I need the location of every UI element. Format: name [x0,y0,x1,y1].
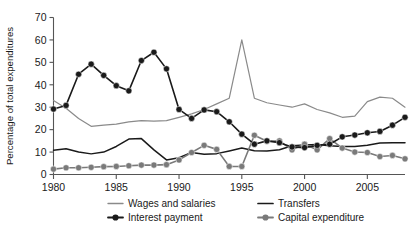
data-point-marker [327,136,333,142]
x-tick-label: 2000 [293,181,317,193]
expenditure-line-chart: 010203040506070 198019851990199520002005… [0,0,411,234]
data-point-marker [101,72,107,78]
legend-swatch-marker [262,214,268,220]
data-point-marker [113,83,119,89]
data-point-marker [88,164,94,170]
data-point-marker [377,153,383,159]
data-point-marker [226,119,232,125]
data-point-marker [377,128,383,134]
x-tick-label: 2005 [356,181,380,193]
data-point-marker [176,106,182,112]
y-tick-label: 70 [35,11,47,23]
data-point-marker [389,152,395,158]
data-point-marker [151,162,157,168]
y-axis-label: Percentage of total expenditures [4,27,15,165]
data-point-marker [163,66,169,72]
data-point-marker [88,61,94,67]
data-point-marker [138,57,144,63]
data-point-marker [63,102,69,108]
data-point-marker [201,107,207,113]
legend-label: Capital expenditure [278,212,365,223]
data-point-marker [214,146,220,152]
y-tick-label: 20 [35,123,47,135]
data-point-marker [389,122,395,128]
x-tick-label: 1985 [105,181,129,193]
data-point-marker [126,163,132,169]
data-point-marker [314,142,320,148]
data-point-marker [264,138,270,144]
data-point-marker [364,149,370,155]
data-point-marker [402,156,408,162]
legend-label: Transfers [278,198,320,209]
legend-label: Wages and salaries [128,198,215,209]
y-tick-label: 0 [41,168,47,180]
data-point-marker [126,88,132,94]
data-point-marker [50,166,56,172]
x-tick-label: 1980 [42,181,66,193]
data-point-marker [402,114,408,120]
data-point-marker [289,144,295,150]
data-point-marker [339,134,345,140]
data-point-marker [50,106,56,112]
data-point-marker [352,149,358,155]
data-point-marker [163,162,169,168]
data-point-marker [113,163,119,169]
y-tick-label: 50 [35,56,47,68]
data-point-marker [101,164,107,170]
data-point-marker [138,162,144,168]
data-point-marker [188,149,194,155]
legend-label: Interest payment [128,212,203,223]
data-point-marker [239,163,245,169]
data-point-marker [76,165,82,171]
data-point-marker [276,140,282,146]
chart-page: 010203040506070 198019851990199520002005… [0,0,411,234]
y-tick-label: 10 [35,146,47,158]
data-point-marker [364,130,370,136]
x-tick-label: 1990 [167,181,191,193]
data-point-marker [301,144,307,150]
data-point-marker [339,145,345,151]
data-point-marker [188,115,194,121]
y-axis-title: Percentage of total expenditures [4,27,15,165]
legend-swatch-marker [112,214,118,220]
data-point-marker [63,165,69,171]
data-point-marker [176,157,182,163]
data-point-marker [76,71,82,77]
data-point-marker [201,142,207,148]
data-point-marker [251,132,257,138]
y-tick-label: 60 [35,34,47,46]
data-point-marker [239,131,245,137]
data-point-marker [251,141,257,147]
data-point-marker [151,49,157,55]
y-tick-label: 40 [35,79,47,91]
data-point-marker [214,109,220,115]
data-point-marker [327,141,333,147]
data-point-marker [226,163,232,169]
x-tick-label: 1995 [230,181,254,193]
data-point-marker [352,132,358,138]
y-tick-label: 30 [35,101,47,113]
